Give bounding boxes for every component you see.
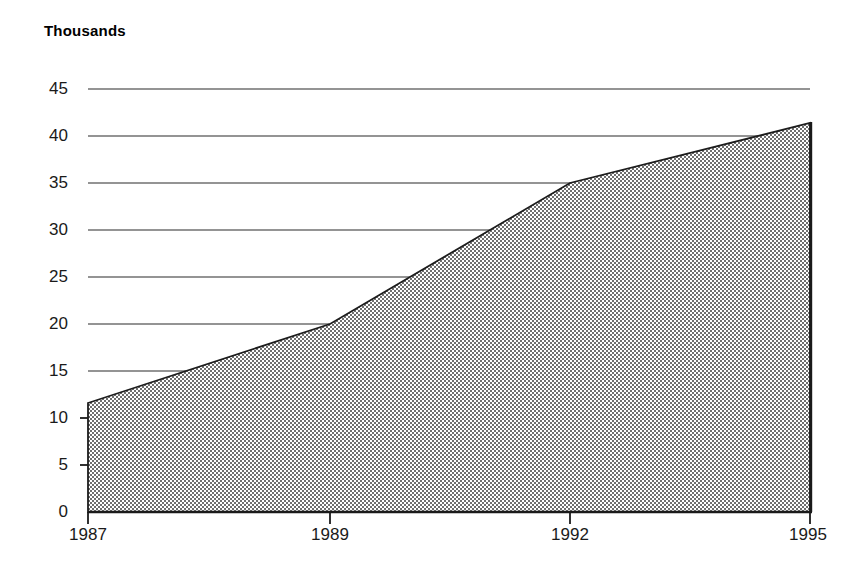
x-axis-label-1987: 1987 (69, 525, 107, 545)
x-axis-label-1995: 1995 (789, 525, 827, 545)
y-axis-label-30: 30 (24, 220, 68, 240)
chart-canvas (0, 0, 865, 576)
y-axis-label-35: 35 (24, 173, 68, 193)
y-axis-label-20: 20 (24, 314, 68, 334)
y-axis-label-25: 25 (24, 267, 68, 287)
y-axis-label-40: 40 (24, 126, 68, 146)
y-axis-label-5: 5 (24, 455, 68, 475)
x-tick-marks (88, 512, 810, 524)
y-axis-label-15: 15 (24, 361, 68, 381)
x-axis-label-1989: 1989 (311, 525, 349, 545)
y-axis-label-45: 45 (24, 79, 68, 99)
x-axis-label-1992: 1992 (551, 525, 589, 545)
data-area (88, 123, 810, 512)
plot-area: 45 40 35 30 25 20 15 10 5 0 1987 1989 19… (0, 0, 865, 576)
y-axis-label-10: 10 (24, 408, 68, 428)
y-axis-label-0: 0 (24, 502, 68, 522)
area-series-thousands (88, 123, 810, 512)
area-chart: Thousands (0, 0, 865, 576)
